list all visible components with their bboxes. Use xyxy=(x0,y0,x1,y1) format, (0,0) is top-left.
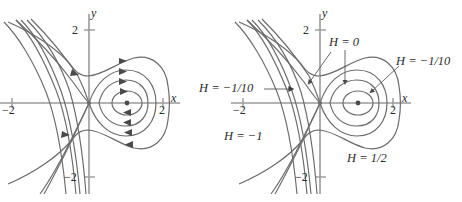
right-open-trajectories xyxy=(235,20,317,194)
leader-h-neg-tenth-right xyxy=(371,66,399,92)
right-panel xyxy=(231,14,411,194)
left-separatrix-curves xyxy=(16,19,89,194)
right-x-tick-positive-label: 2 xyxy=(390,104,396,116)
right-y-axis-label: y xyxy=(322,7,327,19)
annotation-h-zero: H = 0 xyxy=(329,36,359,49)
left-x-tick-negative-label: −2 xyxy=(2,104,15,116)
phase-portrait-figure: −2 2 2 −2 x y −2 2 2 −2 x y H = 0 H = −1… xyxy=(0,0,462,202)
left-y-axis-label: y xyxy=(91,7,96,19)
annotation-h-neg-tenth-left: H = −1/10 xyxy=(199,82,253,95)
saddle-point-marker xyxy=(87,101,91,105)
center-point-marker xyxy=(356,101,361,106)
left-y-tick-positive-label: 2 xyxy=(72,24,78,36)
saddle-point-marker xyxy=(318,101,322,105)
right-x-tick-negative-label: −2 xyxy=(233,104,246,116)
annotation-h-half: H = 1/2 xyxy=(347,152,387,165)
right-x-axis-label: x xyxy=(402,92,407,104)
left-open-trajectories xyxy=(4,20,86,194)
right-y-tick-positive-label: 2 xyxy=(303,24,309,36)
annotation-h-neg-tenth-right: H = −1/10 xyxy=(396,55,450,68)
right-y-tick-negative-label: −2 xyxy=(295,171,308,183)
left-panel xyxy=(0,14,180,194)
left-x-tick-positive-label: 2 xyxy=(159,104,165,116)
left-x-axis-label: x xyxy=(171,92,176,104)
right-separatrix-curves xyxy=(247,19,320,194)
left-y-tick-negative-label: −2 xyxy=(64,171,77,183)
center-point-marker xyxy=(125,101,130,106)
annotation-h-neg-one: H = −1 xyxy=(224,130,262,143)
